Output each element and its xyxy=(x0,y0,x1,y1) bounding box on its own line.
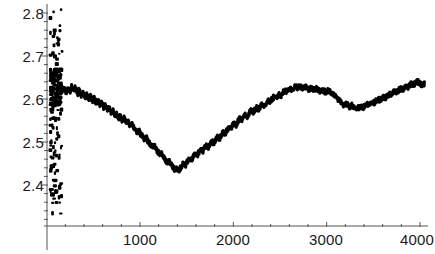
x-axis-tick-label: 4000 xyxy=(382,231,435,248)
y-axis-tick-label: 2.8 xyxy=(0,5,44,22)
chart-container: 2.8 2.7 2.6 2.5 2.4 1000 2000 3000 4000 xyxy=(0,0,435,254)
data-series-main-trace xyxy=(61,80,425,173)
x-axis-tick-label: 3000 xyxy=(291,231,361,248)
x-axis-tick-label: 2000 xyxy=(198,231,268,248)
y-axis-tick-label: 2.4 xyxy=(0,177,44,194)
chart-plot-area xyxy=(0,0,435,254)
x-axis-tick-label: 1000 xyxy=(105,231,175,248)
y-axis-tick-label: 2.7 xyxy=(0,48,44,65)
y-axis-tick-label: 2.5 xyxy=(0,134,44,151)
y-axis-tick-label: 2.6 xyxy=(0,91,44,108)
data-series-burn-in-spike xyxy=(49,8,64,215)
